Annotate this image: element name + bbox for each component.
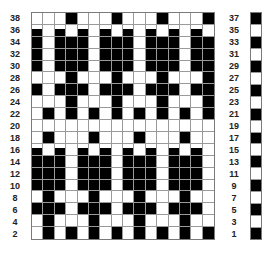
empty-stitch-cell bbox=[134, 25, 145, 37]
filled-stitch-cell bbox=[112, 37, 123, 49]
filled-stitch-cell bbox=[78, 156, 89, 168]
row-label: 2 bbox=[4, 228, 26, 240]
filled-stitch-cell bbox=[134, 203, 145, 215]
empty-stitch-cell bbox=[123, 227, 134, 239]
filled-stitch-cell bbox=[169, 180, 180, 192]
row-label: 17 bbox=[226, 132, 242, 144]
filled-stitch-cell bbox=[32, 203, 43, 215]
filled-stitch-cell bbox=[157, 61, 168, 73]
empty-stitch-cell bbox=[180, 120, 191, 132]
empty-stitch-cell bbox=[100, 227, 111, 239]
empty-stitch-cell bbox=[66, 215, 77, 227]
empty-stitch-cell bbox=[191, 227, 202, 239]
color-stripe-column bbox=[250, 12, 262, 240]
filled-stitch-cell bbox=[203, 37, 214, 49]
empty-stitch-cell bbox=[203, 215, 214, 227]
empty-stitch-cell bbox=[157, 132, 168, 144]
empty-stitch-cell bbox=[100, 215, 111, 227]
filled-stitch-cell bbox=[32, 156, 43, 168]
stripe-light-swatch bbox=[251, 49, 261, 61]
stripe-light-swatch bbox=[251, 121, 261, 133]
filled-stitch-cell bbox=[55, 37, 66, 49]
empty-stitch-cell bbox=[78, 108, 89, 120]
empty-stitch-cell bbox=[55, 13, 66, 25]
empty-stitch-cell bbox=[100, 120, 111, 132]
empty-stitch-cell bbox=[203, 120, 214, 132]
filled-stitch-cell bbox=[134, 132, 145, 144]
filled-stitch-cell bbox=[146, 156, 157, 168]
row-label: 37 bbox=[226, 12, 242, 24]
filled-stitch-cell bbox=[100, 61, 111, 73]
empty-stitch-cell bbox=[55, 215, 66, 227]
empty-stitch-cell bbox=[78, 132, 89, 144]
filled-stitch-cell bbox=[78, 203, 89, 215]
filled-stitch-cell bbox=[78, 180, 89, 192]
stripe-dark-swatch bbox=[251, 228, 261, 239]
filled-stitch-cell bbox=[169, 156, 180, 168]
empty-stitch-cell bbox=[203, 180, 214, 192]
empty-stitch-cell bbox=[203, 168, 214, 180]
empty-stitch-cell bbox=[66, 156, 77, 168]
filled-stitch-cell bbox=[157, 227, 168, 239]
row-label: 24 bbox=[4, 96, 26, 108]
filled-stitch-cell bbox=[89, 156, 100, 168]
filled-stitch-cell bbox=[32, 25, 43, 37]
row-label: 27 bbox=[226, 72, 242, 84]
empty-stitch-cell bbox=[180, 144, 191, 156]
empty-stitch-cell bbox=[32, 191, 43, 203]
row-label: 22 bbox=[4, 108, 26, 120]
empty-stitch-cell bbox=[100, 191, 111, 203]
empty-stitch-cell bbox=[157, 203, 168, 215]
empty-stitch-cell bbox=[169, 96, 180, 108]
empty-stitch-cell bbox=[55, 96, 66, 108]
empty-stitch-cell bbox=[55, 227, 66, 239]
filled-stitch-cell bbox=[146, 203, 157, 215]
filled-stitch-cell bbox=[89, 191, 100, 203]
empty-stitch-cell bbox=[32, 132, 43, 144]
row-label: 6 bbox=[4, 204, 26, 216]
filled-stitch-cell bbox=[180, 180, 191, 192]
filled-stitch-cell bbox=[169, 144, 180, 156]
empty-stitch-cell bbox=[203, 203, 214, 215]
empty-stitch-cell bbox=[180, 72, 191, 84]
filled-stitch-cell bbox=[55, 84, 66, 96]
filled-stitch-cell bbox=[146, 168, 157, 180]
empty-stitch-cell bbox=[100, 132, 111, 144]
filled-stitch-cell bbox=[157, 49, 168, 61]
filled-stitch-cell bbox=[43, 156, 54, 168]
empty-stitch-cell bbox=[112, 180, 123, 192]
filled-stitch-cell bbox=[191, 203, 202, 215]
row-label: 38 bbox=[4, 12, 26, 24]
filled-stitch-cell bbox=[146, 61, 157, 73]
filled-stitch-cell bbox=[157, 96, 168, 108]
empty-stitch-cell bbox=[89, 72, 100, 84]
filled-stitch-cell bbox=[146, 37, 157, 49]
row-label: 26 bbox=[4, 84, 26, 96]
row-label: 32 bbox=[4, 48, 26, 60]
empty-stitch-cell bbox=[112, 203, 123, 215]
filled-stitch-cell bbox=[66, 96, 77, 108]
empty-stitch-cell bbox=[89, 120, 100, 132]
filled-stitch-cell bbox=[191, 156, 202, 168]
filled-stitch-cell bbox=[66, 108, 77, 120]
filled-stitch-cell bbox=[157, 72, 168, 84]
filled-stitch-cell bbox=[112, 84, 123, 96]
filled-stitch-cell bbox=[66, 13, 77, 25]
filled-stitch-cell bbox=[32, 168, 43, 180]
filled-stitch-cell bbox=[43, 168, 54, 180]
row-label: 23 bbox=[226, 96, 242, 108]
row-label: 33 bbox=[226, 36, 242, 48]
row-label: 18 bbox=[4, 132, 26, 144]
empty-stitch-cell bbox=[112, 132, 123, 144]
empty-stitch-cell bbox=[169, 120, 180, 132]
stripe-light-swatch bbox=[251, 144, 261, 156]
empty-stitch-cell bbox=[89, 144, 100, 156]
empty-stitch-cell bbox=[123, 108, 134, 120]
filled-stitch-cell bbox=[123, 84, 134, 96]
filled-stitch-cell bbox=[203, 84, 214, 96]
empty-stitch-cell bbox=[180, 25, 191, 37]
filled-stitch-cell bbox=[134, 227, 145, 239]
filled-stitch-cell bbox=[146, 25, 157, 37]
empty-stitch-cell bbox=[169, 72, 180, 84]
empty-stitch-cell bbox=[112, 191, 123, 203]
